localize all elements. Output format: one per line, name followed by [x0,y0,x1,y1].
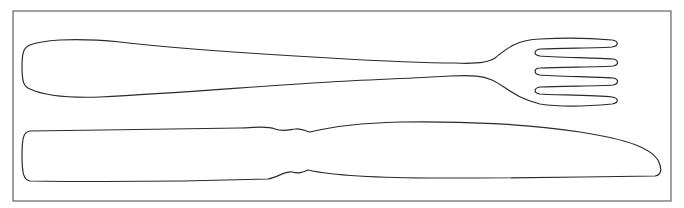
knife-icon [22,122,661,182]
cutlery-drawing [0,0,684,208]
fork-icon [22,38,618,106]
